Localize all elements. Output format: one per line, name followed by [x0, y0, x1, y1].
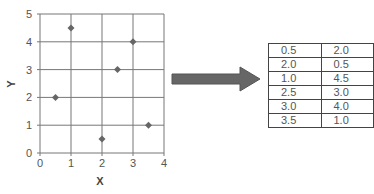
x-value-cell: 1.0 — [269, 72, 322, 86]
table-row: 3.51.0 — [269, 114, 374, 128]
x-tick-label: 4 — [161, 157, 167, 169]
diamond-marker — [130, 38, 137, 45]
table-row: 1.04.5 — [269, 72, 374, 86]
table-row: 2.00.5 — [269, 58, 374, 72]
diamond-marker — [68, 24, 75, 31]
x-axis-label: X — [96, 175, 104, 187]
diamond-marker — [114, 66, 121, 73]
chart-grid — [37, 14, 164, 156]
y-tick-label: 2 — [26, 91, 32, 103]
table-row: 3.04.0 — [269, 100, 374, 114]
y-tick-label: 3 — [26, 64, 32, 76]
y-tick-label: 4 — [26, 36, 32, 48]
y-value-cell: 0.5 — [321, 58, 374, 72]
right-arrow-icon — [170, 66, 262, 92]
x-value-cell: 0.5 — [269, 44, 322, 58]
diamond-marker — [99, 136, 106, 143]
x-axis-ticks: 01234 — [37, 157, 167, 169]
y-value-cell: 4.5 — [321, 72, 374, 86]
y-tick-label: 5 — [26, 8, 32, 20]
y-tick-label: 0 — [26, 147, 32, 159]
table-row: 2.53.0 — [269, 86, 374, 100]
y-value-cell: 2.0 — [321, 44, 374, 58]
table-row: 0.52.0 — [269, 44, 374, 58]
scatter-chart: 012345 01234 X Y — [0, 0, 180, 194]
x-tick-label: 0 — [37, 157, 43, 169]
y-value-cell: 4.0 — [321, 100, 374, 114]
y-axis-label: Y — [5, 80, 17, 88]
y-value-cell: 3.0 — [321, 86, 374, 100]
x-value-cell: 3.0 — [269, 100, 322, 114]
x-value-cell: 2.0 — [269, 58, 322, 72]
y-value-cell: 1.0 — [321, 114, 374, 128]
diamond-marker — [52, 94, 59, 101]
x-value-cell: 3.5 — [269, 114, 322, 128]
diamond-marker — [145, 122, 152, 129]
x-value-cell: 2.5 — [269, 86, 322, 100]
data-table: 0.52.02.00.51.04.52.53.03.04.03.51.0 — [268, 43, 374, 128]
y-tick-label: 1 — [26, 119, 32, 131]
x-tick-label: 1 — [68, 157, 74, 169]
x-tick-label: 2 — [99, 157, 105, 169]
x-tick-label: 3 — [130, 157, 136, 169]
y-axis-ticks: 012345 — [26, 8, 32, 159]
